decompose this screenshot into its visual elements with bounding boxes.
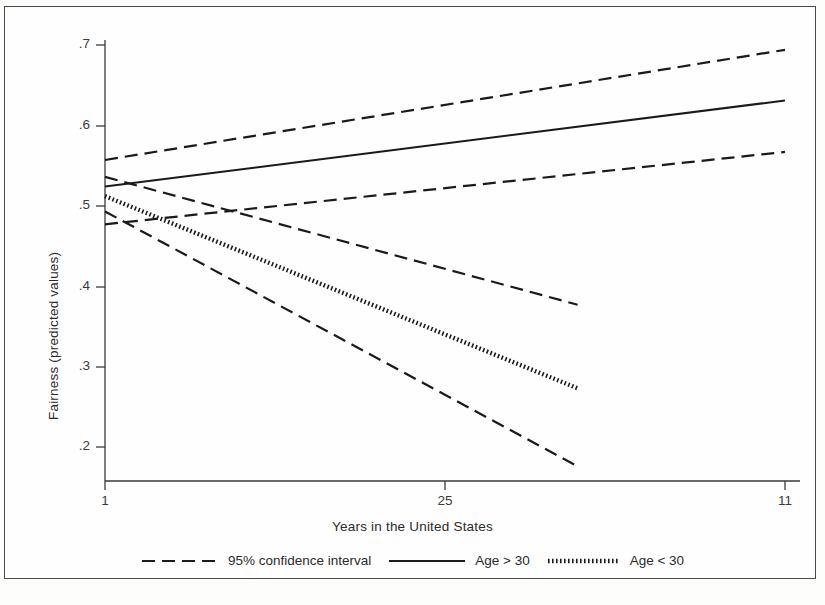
y-tick-marks [96,45,105,447]
series-line [105,211,578,466]
legend-swatch-dotted [547,555,621,567]
x-tick-label: 11 [765,493,805,508]
y-tick-label: .3 [56,358,90,373]
x-tick-label: 25 [425,493,465,508]
legend-label: Age < 30 [630,553,684,568]
data-series-group [105,50,785,466]
legend-swatch-dashed [141,555,219,567]
series-line [105,196,578,388]
x-tick-marks [105,481,785,490]
legend-entry: Age < 30 [547,553,684,568]
legend-label: Age > 30 [475,553,529,568]
y-tick-label: .7 [56,36,90,51]
chart-legend: 95% confidence intervalAge > 30Age < 30 [0,553,825,568]
y-tick-label: .4 [56,278,90,293]
chart-plot-area [0,0,825,605]
series-line [105,152,785,224]
x-tick-label: 1 [85,493,125,508]
y-tick-label: .6 [56,117,90,132]
y-axis-label: Fairness (predicted values) [46,252,61,420]
legend-label: 95% confidence interval [228,553,371,568]
series-line [105,177,578,305]
x-axis-label: Years in the United States [0,519,825,534]
figure-container: .7.6.5.4.3.2 12511 Fairness (predicted v… [0,0,825,605]
legend-swatch-solid [388,555,466,567]
legend-entry: 95% confidence interval [141,553,371,568]
y-tick-label: .5 [56,197,90,212]
y-tick-label: .2 [56,438,90,453]
legend-entry: Age > 30 [388,553,529,568]
